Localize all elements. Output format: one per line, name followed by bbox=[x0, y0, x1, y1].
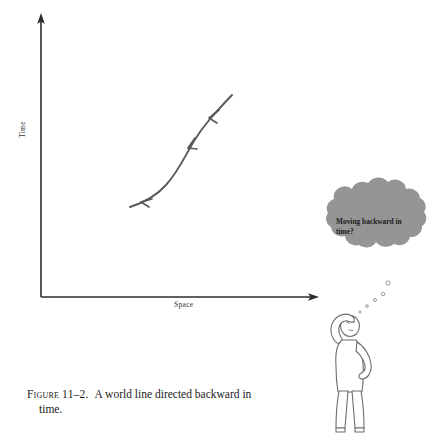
figure-right-leg bbox=[352, 391, 364, 428]
figure-container: Time Space Moving backward in time? Figu… bbox=[0, 0, 440, 444]
world-line-arrowhead-3 bbox=[141, 199, 152, 207]
thought-bubble-text-line1: Moving backward bbox=[336, 217, 394, 226]
figure-left-foot bbox=[336, 428, 345, 432]
figure-caption-number: Figure 11–2. bbox=[27, 388, 89, 400]
thought-dot-1 bbox=[386, 281, 390, 285]
world-line-group bbox=[130, 95, 232, 207]
figure-caption-text-line2: time. bbox=[39, 402, 267, 417]
figure-caption-text: A world line directed backward in bbox=[95, 388, 252, 400]
thought-dot-2 bbox=[381, 292, 385, 296]
thought-bubble-cloud bbox=[326, 178, 426, 314]
axes-group bbox=[37, 13, 319, 301]
thought-dot-3 bbox=[374, 299, 377, 302]
puzzled-stick-figure bbox=[331, 314, 371, 432]
x-axis-label-space: Space bbox=[174, 300, 193, 309]
figure-right-foot bbox=[355, 428, 364, 432]
cloud-shape bbox=[326, 178, 426, 248]
figure-left-leg bbox=[336, 391, 348, 428]
y-axis-label-time: Time bbox=[18, 121, 27, 138]
thought-dot-4 bbox=[366, 305, 369, 308]
thought-bubble-text: Moving backward in time? bbox=[336, 217, 410, 236]
thought-dot-5 bbox=[359, 311, 361, 313]
world-line-arrowhead-1 bbox=[209, 110, 219, 123]
figure-caption: Figure 11–2.A world line directed backwa… bbox=[27, 387, 267, 417]
